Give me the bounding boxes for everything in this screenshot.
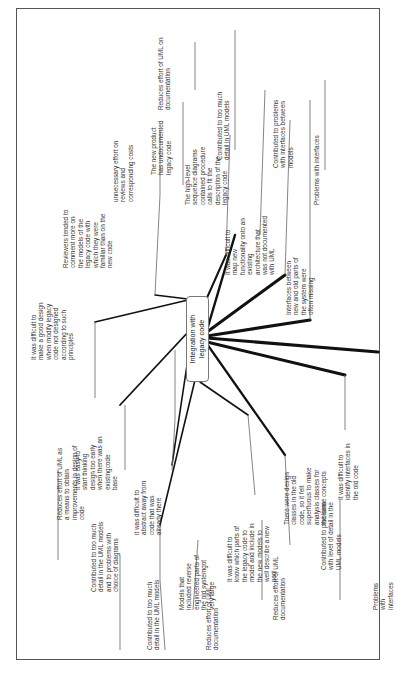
node-level-of-detail-problems: Contributed to problems with level of de… xyxy=(320,502,342,570)
node-too-much-detail-bottom: Contributed to too much detail in the UM… xyxy=(146,580,161,650)
node-abstract-away-difficult: it was difficult to abstract away from c… xyxy=(133,481,163,535)
node-too-much-detail: Contributed to too much detail in UML mo… xyxy=(216,92,231,160)
node-interfaces-between-models: Contributed to problems with interfaces … xyxy=(272,100,294,168)
node-which-legacy-parts-to-model: It was difficult to know which parts of … xyxy=(226,523,278,582)
node-problems-with-interfaces-bottom: Problems with interfaces xyxy=(372,582,394,610)
central-topic-label: Integration with legacy code xyxy=(189,299,206,379)
central-topic-node[interactable]: Integration with legacy code xyxy=(186,296,209,382)
node-uml-documentation-effort: Reduces effort of UML on documentation xyxy=(157,38,172,110)
node-design-too-early: It was easy to start thinking design too… xyxy=(74,436,118,490)
node-interfaces-missing: Interfaces between new and old parts of … xyxy=(285,257,315,315)
node-reviewers-legacy-models: Reviewers tended to comment more on the … xyxy=(62,210,114,268)
node-uml-documentation-bottom: Reduces effort of UML documentation xyxy=(272,556,287,620)
node-detail-and-diagram-choice: Contributed to too much detail in the UM… xyxy=(90,522,120,592)
node-unnecessary-review-effort: unnecessary effort on reviews and corres… xyxy=(112,141,134,202)
node-problems-with-interfaces-top: Problems with interfaces xyxy=(313,135,320,205)
node-good-design-difficult: It was difficult to make a good design w… xyxy=(30,302,74,360)
node-map-functionality-undocumented: It was difficult to map new functionalit… xyxy=(224,216,276,275)
node-uml-documentation-bottom-left: Reduces effort of UML documentation xyxy=(205,586,220,650)
node-identify-interfaces-difficult: It was difficult to identify interfaces … xyxy=(337,444,359,500)
node-undocumented-legacy-code: The new product has undocumented legacy … xyxy=(150,121,172,175)
